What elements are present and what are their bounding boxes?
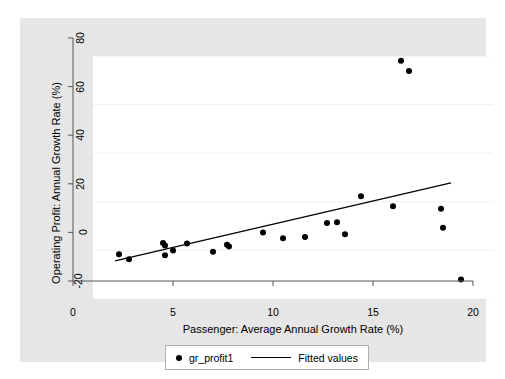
data-point: [280, 235, 286, 241]
data-point: [162, 243, 168, 249]
data-point: [342, 231, 348, 237]
data-point: [184, 241, 190, 247]
y-axis-title: Operating Profit: Annual Growth Rate (%): [50, 61, 62, 305]
x-tick-5: 5: [170, 307, 176, 318]
line-marker-icon: [251, 357, 291, 358]
data-point: [406, 68, 412, 74]
plot-area: [93, 56, 493, 299]
dot-marker-icon: [176, 355, 182, 361]
data-point: [398, 58, 404, 64]
chart-figure: 80 60 40 20 0 -20 0 5 10 15 20 Passenger…: [0, 0, 505, 379]
data-point: [324, 220, 330, 226]
y-tick-20: 20: [72, 184, 86, 196]
data-point: [260, 229, 266, 235]
x-tick-15: 15: [367, 307, 379, 318]
y-tick-60: 60: [72, 87, 86, 99]
graph-region: 80 60 40 20 0 -20 0 5 10 15 20 Passenger…: [20, 18, 486, 362]
chart-legend: gr_profit1 Fitted values: [165, 345, 369, 370]
legend-label-fitted-values: Fitted values: [298, 352, 358, 364]
data-point: [162, 252, 168, 258]
legend-entry-fitted-values: Fitted values: [251, 352, 358, 364]
y-tick-80: 80: [72, 38, 86, 50]
data-point: [440, 225, 446, 231]
scatter-plot-svg: [93, 56, 493, 299]
data-point: [390, 203, 396, 209]
x-tick-0: 0: [70, 307, 76, 318]
data-point: [126, 256, 132, 262]
data-point: [170, 247, 176, 253]
data-point: [334, 219, 340, 225]
data-point: [358, 193, 364, 199]
x-tick-20: 20: [467, 307, 479, 318]
data-point: [458, 277, 464, 283]
y-tick-0: 0: [72, 232, 86, 244]
data-point: [210, 249, 216, 255]
x-axis-title: Passenger: Average Annual Growth Rate (%…: [93, 323, 493, 335]
x-tick-10: 10: [267, 307, 279, 318]
legend-entry-gr-profit1: gr_profit1: [176, 352, 233, 364]
legend-label-gr-profit1: gr_profit1: [189, 352, 233, 364]
y-tick-minus20: -20: [72, 281, 86, 293]
y-tick-40: 40: [72, 135, 86, 147]
data-point: [438, 206, 444, 212]
data-point: [302, 234, 308, 240]
data-point: [116, 251, 122, 257]
data-point: [226, 244, 232, 250]
fitted-line: [115, 183, 451, 261]
